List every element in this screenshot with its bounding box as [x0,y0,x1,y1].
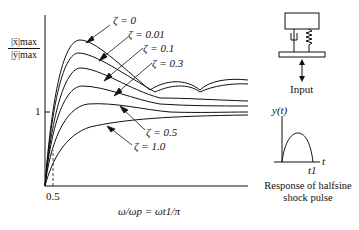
label-zeta-0.01: ζ = 0.01 [128,28,165,40]
curves [45,40,248,186]
y-label-denominator: |ÿ|max [8,48,40,61]
y-axis-label: |ẍ|max |ÿ|max [8,36,40,61]
spring-icon [306,29,312,52]
caption-line-1: Response of halfsine [258,180,358,192]
x-axis-label: ω/ωp = ωt1/π [118,205,180,217]
pulse-caption: Response of halfsine shock pulse [258,180,358,204]
pulse-t-label: t [322,155,325,167]
caption-line-2: shock pulse [258,192,358,204]
spring-damper-diagram [279,13,325,80]
y-tick-1: 1 [35,105,41,117]
arrow-down-icon [299,76,305,82]
pulse-t1-label: t1 [308,164,317,176]
curve-zeta-0 [45,40,248,186]
label-zeta-0.1: ζ = 0.1 [143,42,174,54]
y-label-numerator: |ẍ|max [11,36,37,47]
mass-block [285,13,319,29]
label-zeta-1.0: ζ = 1.0 [134,140,165,152]
curve-zeta-0.01 [45,53,248,186]
label-zeta-0: ζ = 0 [113,14,136,26]
base-plate [279,52,325,57]
input-label: Input [290,83,313,95]
label-zeta-0.5: ζ = 0.5 [146,126,177,138]
halfsine-pulse-plot [274,116,320,162]
pulse-y-label: y(t) [272,104,287,116]
arrow-up-icon [299,59,305,65]
x-tick-0.5: 0.5 [46,190,60,202]
label-zeta-0.3: ζ = 0.3 [152,57,183,69]
